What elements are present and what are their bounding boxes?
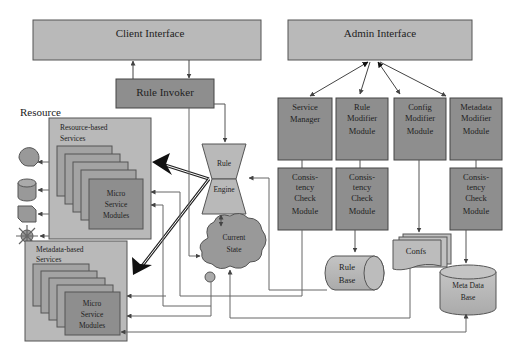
metadata-based-services: Metadata-based Services Micro Service Mo… bbox=[25, 241, 127, 341]
svg-text:Consis-: Consis- bbox=[292, 172, 318, 182]
svg-text:Services: Services bbox=[60, 134, 85, 143]
svg-text:Base: Base bbox=[461, 293, 476, 302]
svg-text:Metadata-based: Metadata-based bbox=[36, 245, 84, 254]
svg-text:Metadata: Metadata bbox=[460, 102, 492, 112]
svg-text:Modifier: Modifier bbox=[347, 113, 377, 123]
svg-text:Config: Config bbox=[408, 102, 432, 112]
svg-text:Engine: Engine bbox=[213, 185, 235, 194]
svg-text:Meta Data: Meta Data bbox=[452, 281, 484, 290]
svg-text:Module: Module bbox=[407, 126, 434, 136]
svg-text:Services: Services bbox=[36, 255, 61, 264]
svg-text:Consis-: Consis- bbox=[463, 172, 489, 182]
svg-text:Micro: Micro bbox=[107, 189, 126, 198]
svg-text:Current: Current bbox=[223, 233, 247, 242]
client-interface-label: Client Interface bbox=[116, 27, 185, 39]
svg-text:tency: tency bbox=[296, 182, 315, 192]
service-manager-box: Service Manager bbox=[278, 98, 332, 160]
svg-text:Rule: Rule bbox=[217, 159, 232, 168]
svg-text:Rule: Rule bbox=[354, 102, 370, 112]
meta-data-base-cylinder: Meta Data Base bbox=[440, 265, 496, 315]
svg-text:Modifier: Modifier bbox=[405, 113, 435, 123]
svg-text:Manager: Manager bbox=[290, 114, 320, 124]
svg-text:tency: tency bbox=[467, 182, 486, 192]
svg-text:Consis-: Consis- bbox=[349, 172, 375, 182]
architecture-diagram: Client Interface Admin Interface Rule In… bbox=[0, 0, 521, 357]
svg-text:Service: Service bbox=[292, 102, 318, 112]
svg-text:Base: Base bbox=[339, 275, 356, 285]
consistency-check-module-1: Consis- tency Check Module bbox=[278, 168, 332, 230]
resource-icon-arrows bbox=[38, 162, 49, 236]
svg-text:Check: Check bbox=[351, 193, 373, 203]
rule-invoker-box: Rule Invoker bbox=[116, 79, 214, 108]
admin-arrows bbox=[310, 62, 446, 96]
consistency-check-module-2: Consis- tency Check Module bbox=[336, 168, 388, 230]
client-interface-box: Client Interface bbox=[33, 20, 261, 60]
svg-text:Service: Service bbox=[105, 200, 128, 209]
svg-text:Resource-based: Resource-based bbox=[60, 123, 108, 132]
admin-interface-box: Admin Interface bbox=[288, 20, 472, 60]
admin-interface-label: Admin Interface bbox=[344, 27, 416, 39]
consistency-check-module-3: Consis- tency Check Module bbox=[450, 168, 502, 230]
config-modifier-module-box: Config Modifier Module bbox=[394, 98, 446, 160]
svg-text:Module: Module bbox=[349, 206, 376, 216]
confs-documents: Confs bbox=[393, 234, 451, 270]
svg-text:Check: Check bbox=[465, 193, 487, 203]
svg-text:Module: Module bbox=[292, 206, 319, 216]
svg-text:Check: Check bbox=[294, 193, 316, 203]
svg-text:Modules: Modules bbox=[79, 321, 105, 330]
small-cycle-icon bbox=[205, 272, 215, 282]
metadata-modifier-module-box: Metadata Modifier Module bbox=[450, 98, 502, 160]
svg-text:Service: Service bbox=[81, 310, 104, 319]
svg-text:tency: tency bbox=[353, 182, 372, 192]
resource-label: Resource bbox=[20, 106, 61, 118]
svg-text:State: State bbox=[227, 245, 243, 254]
rule-modifier-module-box: Rule Modifier Module bbox=[336, 98, 388, 160]
svg-text:Confs: Confs bbox=[406, 246, 426, 256]
database-icon bbox=[18, 179, 36, 201]
rule-invoker-label: Rule Invoker bbox=[136, 86, 194, 98]
cube-icon bbox=[18, 206, 36, 222]
svg-text:Modifier: Modifier bbox=[461, 113, 491, 123]
svg-text:Micro: Micro bbox=[83, 299, 102, 308]
head-icon bbox=[19, 148, 39, 166]
svg-text:Modules: Modules bbox=[103, 211, 129, 220]
svg-text:Rule: Rule bbox=[339, 262, 355, 272]
svg-text:Module: Module bbox=[349, 126, 376, 136]
resource-based-services: Resource-based Services Micro Service Mo… bbox=[49, 118, 151, 239]
current-state-cloud: Current State bbox=[200, 213, 266, 282]
rule-base-cylinder: Rule Base bbox=[325, 256, 384, 290]
svg-text:Module: Module bbox=[463, 126, 490, 136]
svg-text:Module: Module bbox=[463, 206, 490, 216]
